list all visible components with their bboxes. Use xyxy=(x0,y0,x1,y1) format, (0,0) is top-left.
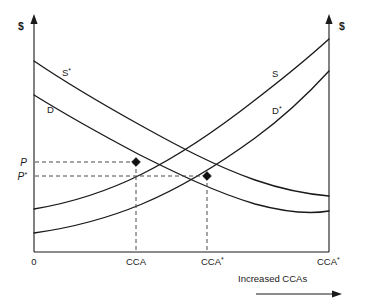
curve-label-s-star: S* xyxy=(62,67,71,79)
axes-group xyxy=(30,14,332,252)
x-tick-label-cca: CCA xyxy=(126,256,147,267)
equilibrium-marker-p-star-cca-star xyxy=(203,172,212,181)
left-y-axis-arrow-icon xyxy=(30,14,37,24)
x-tick-label-cca-star-sup: * xyxy=(221,256,224,263)
x-tick-labels-group: 0 CCA CCA* CCA* xyxy=(31,256,340,268)
supply-demand-chart: $ $ S* D S D* xyxy=(0,0,365,306)
x-tick-label-origin: 0 xyxy=(31,256,36,267)
x-tick-label-cca-max-sup: * xyxy=(337,256,340,263)
equilibrium-markers-group xyxy=(132,158,212,181)
x-tick-label-cca-star-text: CCA xyxy=(201,256,222,267)
curve-label-d-star-sup: * xyxy=(279,105,282,112)
curve-label-s-star-sup: * xyxy=(68,67,71,74)
right-axis-unit-label: $ xyxy=(339,20,345,32)
curve-d xyxy=(34,95,329,213)
x-tick-label-cca-max-text: CCA xyxy=(317,256,338,267)
curve-label-d: D xyxy=(47,104,54,115)
x-axis-caption-group: Increased CCAs xyxy=(238,273,342,298)
curve-s xyxy=(34,39,329,209)
x-tick-label-cca-max: CCA* xyxy=(317,256,340,268)
x-axis-caption-label: Increased CCAs xyxy=(238,273,307,284)
equilibrium-marker-p-cca xyxy=(132,158,141,167)
curve-label-d-star: D* xyxy=(272,105,282,117)
x-tick-label-cca-star: CCA* xyxy=(201,256,224,268)
price-label-p-star: P* xyxy=(18,171,28,183)
curve-label-s: S xyxy=(272,68,278,79)
price-label-p: P xyxy=(20,157,27,168)
left-axis-unit-label: $ xyxy=(18,20,24,32)
price-labels-group: P P* xyxy=(18,157,28,182)
figure-root: $ $ S* D S D* xyxy=(0,0,365,306)
curves-group xyxy=(34,39,329,233)
right-y-axis-arrow-icon xyxy=(325,14,332,24)
price-label-p-star-sup: * xyxy=(24,171,27,178)
x-axis-caption-arrow-icon xyxy=(332,290,342,297)
